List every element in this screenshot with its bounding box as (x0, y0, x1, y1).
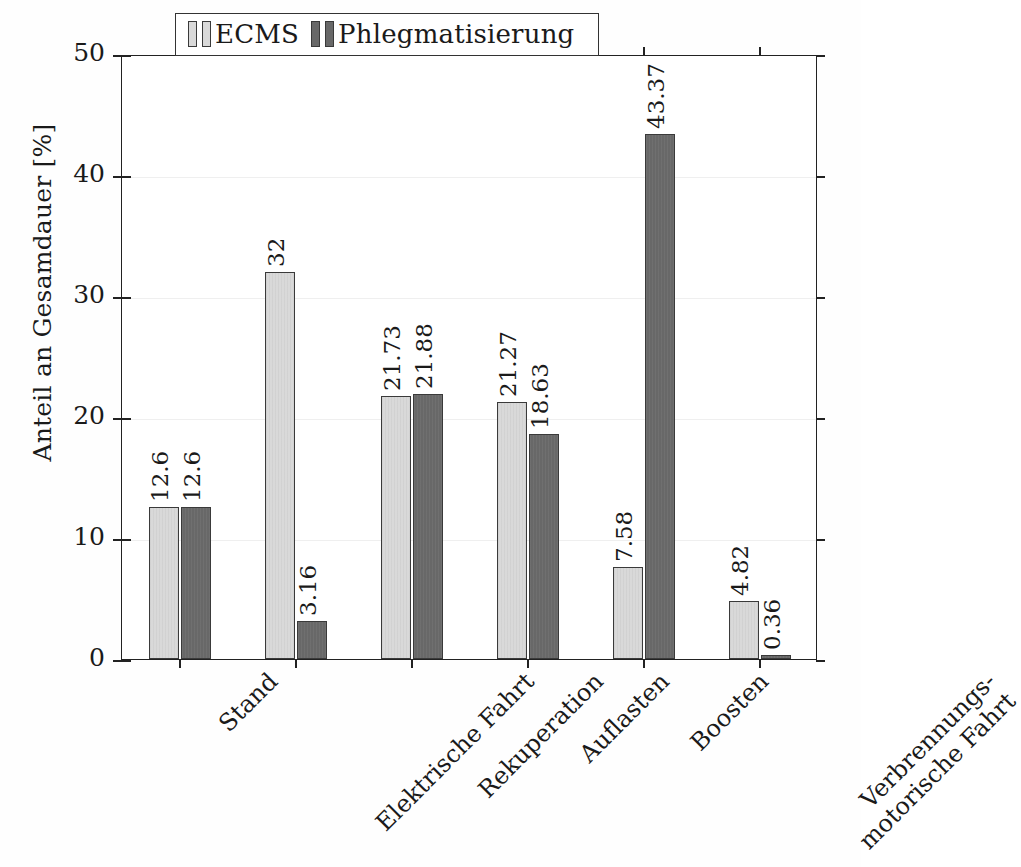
legend-entry-ecms: ECMS (188, 19, 311, 49)
y-tick-mark-inner (122, 660, 131, 662)
bar-phlegmatisierung-3: 18.63 (529, 434, 559, 659)
bar-phlegmatisierung-5: 0.36 (761, 655, 791, 659)
gridline (122, 419, 816, 420)
y-tick-label: 40 (73, 159, 105, 188)
legend-label-phlegmatisierung: Phlegmatisierung (338, 19, 574, 49)
y-tick-mark (113, 539, 122, 541)
gridline (122, 540, 816, 541)
bar-value-label: 32 (263, 238, 289, 267)
plot-area: 0102030405012.63221.7321.277.584.8212.63… (121, 55, 817, 660)
bar-value-label: 12.6 (179, 450, 205, 501)
bar-ecms-0: 12.6 (149, 507, 179, 659)
x-axis-tick (759, 47, 761, 56)
x-axis-tick (643, 659, 645, 668)
y-tick-mark-right (816, 418, 825, 420)
y-tick-mark-inner (122, 55, 131, 57)
bar-ecms-4: 7.58 (613, 567, 643, 659)
y-tick-label: 20 (73, 401, 105, 430)
bar-value-label: 43.37 (643, 63, 669, 129)
bar-value-label: 21.27 (495, 331, 521, 397)
bar-value-label: 4.82 (727, 544, 753, 595)
y-tick-mark (113, 418, 122, 420)
bar-phlegmatisierung-2: 21.88 (413, 394, 443, 659)
legend-entry-phlegmatisierung: Phlegmatisierung (311, 19, 586, 49)
gridline (122, 177, 816, 178)
legend-swatch-ecms-a (188, 21, 197, 47)
x-axis-tick (411, 659, 413, 668)
chart-legend: ECMS Phlegmatisierung (175, 13, 599, 56)
y-tick-mark-inner (122, 297, 131, 299)
y-tick-mark-right (816, 55, 825, 57)
bar-ecms-5: 4.82 (729, 601, 759, 659)
y-tick-label: 30 (73, 280, 105, 309)
x-category-label-line1: Boosten (685, 667, 774, 756)
x-category-label-0: Stand (214, 668, 284, 738)
x-axis-tick (643, 47, 645, 56)
y-tick-mark (113, 55, 122, 57)
legend-swatch-group-phlegmatisierung (311, 21, 334, 47)
legend-swatch-ecms-b (202, 21, 211, 47)
legend-swatch-phlegmatisierung-a (311, 21, 320, 47)
bar-value-label: 12.6 (147, 450, 173, 501)
y-tick-mark-inner (122, 176, 131, 178)
bar-ecms-1: 32 (265, 272, 295, 659)
x-axis-tick (295, 659, 297, 668)
bar-value-label: 21.88 (411, 323, 437, 389)
x-category-label-5: Verbrennungs-motorische Fahrt (834, 668, 1021, 855)
bar-phlegmatisierung-4: 43.37 (645, 134, 675, 659)
y-tick-label: 0 (89, 643, 105, 672)
y-tick-mark (113, 176, 122, 178)
x-category-label-4: Boosten (686, 668, 775, 757)
bar-phlegmatisierung-1: 3.16 (297, 621, 327, 659)
bar-value-label: 3.16 (295, 565, 321, 616)
gridline (122, 298, 816, 299)
y-tick-mark-right (816, 539, 825, 541)
legend-label-ecms: ECMS (215, 19, 299, 49)
y-tick-mark (113, 660, 122, 662)
y-tick-mark-inner (122, 539, 131, 541)
x-category-label-line1: Stand (213, 667, 283, 737)
bar-ecms-3: 21.27 (497, 402, 527, 659)
legend-swatch-group-ecms (188, 21, 211, 47)
bar-value-label: 21.73 (379, 325, 405, 391)
y-tick-mark-inner (122, 418, 131, 420)
y-tick-mark-right (816, 176, 825, 178)
bar-phlegmatisierung-0: 12.6 (181, 507, 211, 659)
y-tick-mark (113, 297, 122, 299)
bar-value-label: 7.58 (611, 511, 637, 562)
y-axis-title: Anteil an Gesamdauer [%] (28, 13, 57, 573)
y-tick-mark-right (816, 297, 825, 299)
x-axis-tick (179, 659, 181, 668)
y-tick-mark-right (816, 660, 825, 662)
x-axis-tick (759, 659, 761, 668)
legend-swatch-phlegmatisierung-b (325, 21, 334, 47)
x-axis-tick (527, 659, 529, 668)
y-tick-label: 50 (73, 38, 105, 67)
bar-value-label: 18.63 (527, 363, 553, 429)
bar-ecms-2: 21.73 (381, 396, 411, 659)
y-tick-label: 10 (73, 522, 105, 551)
bar-value-label: 0.36 (759, 598, 785, 649)
